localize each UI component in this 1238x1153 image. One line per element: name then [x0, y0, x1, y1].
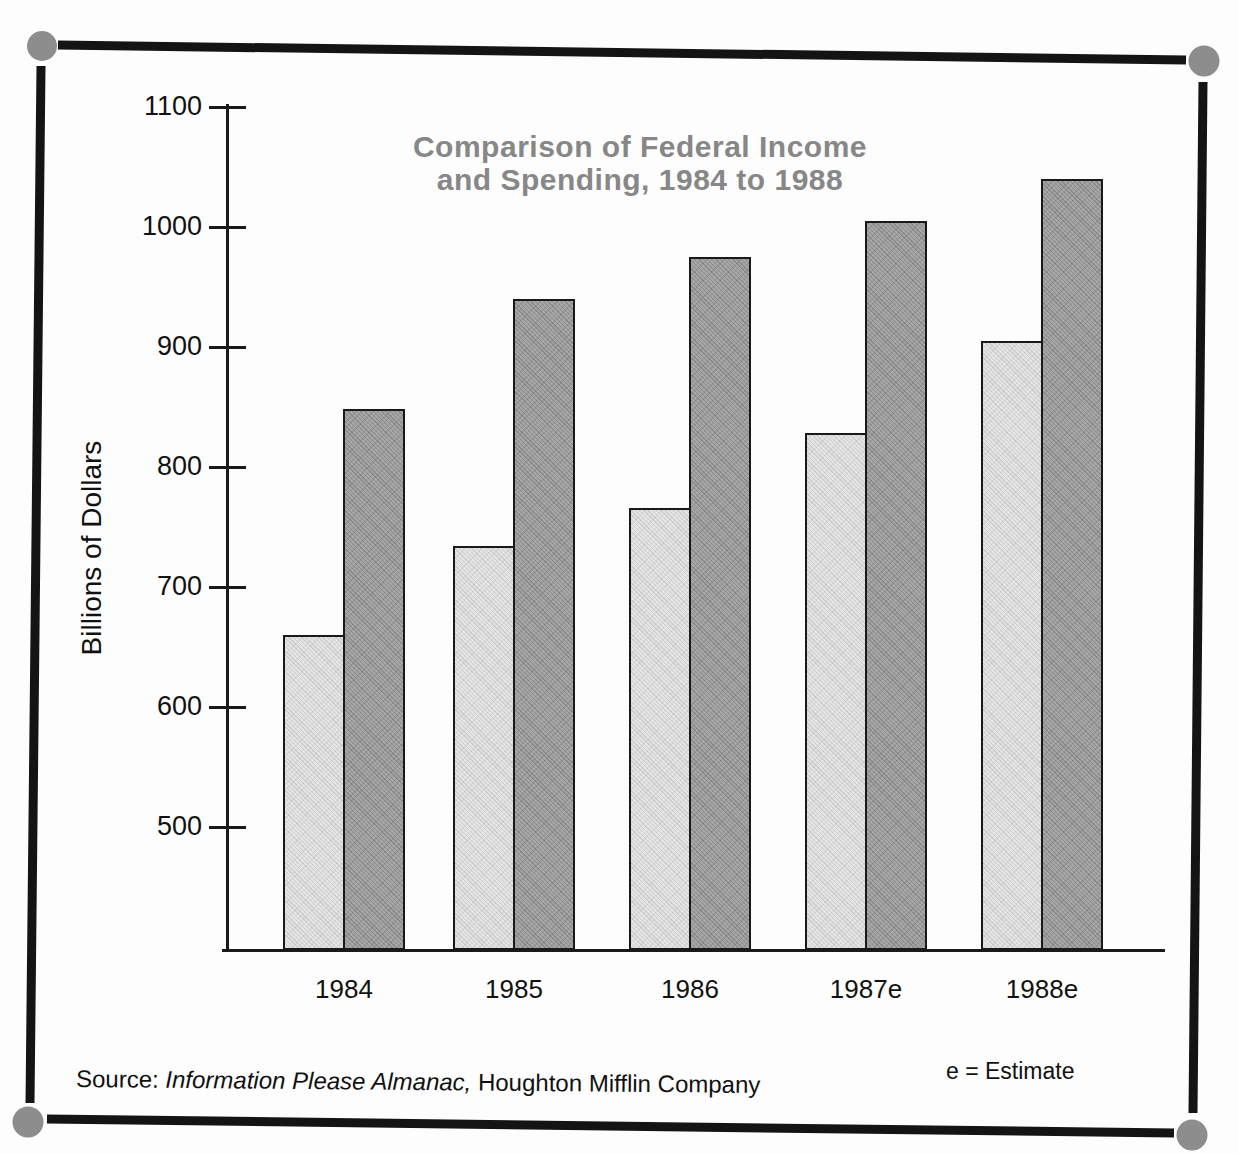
corner-dot-top-left: [27, 31, 57, 61]
y-tick-mark-800: [209, 466, 246, 469]
y-tick-label-600: 600: [110, 691, 202, 722]
y-axis-label: Billions of Dollars: [76, 441, 108, 656]
bar-light-1985: [453, 546, 515, 950]
source-note: Source: Information Please Almanac, Houg…: [76, 1065, 761, 1099]
bar-light-1988e: [981, 341, 1043, 950]
x-tick-label-1985: 1985: [444, 974, 584, 1005]
bar-light-1987e: [805, 433, 867, 950]
y-tick-mark-1000: [209, 226, 246, 229]
y-tick-label-1100: 1100: [110, 91, 202, 122]
bar-dark-1988e: [1041, 179, 1103, 950]
corner-dot-top-right: [1189, 46, 1220, 77]
source-prefix: Source:: [76, 1065, 159, 1093]
y-tick-label-900: 900: [110, 331, 202, 362]
corner-dot-bottom-right: [1177, 1120, 1208, 1151]
y-tick-label-800: 800: [110, 451, 202, 482]
frame-left-line: [30, 66, 41, 1103]
bar-dark-1986: [689, 257, 751, 950]
y-tick-mark-700: [209, 586, 246, 589]
bar-dark-1985: [513, 299, 575, 950]
bar-light-1986: [629, 508, 691, 950]
x-tick-label-1988e: 1988e: [972, 974, 1112, 1005]
frame-bottom-line: [47, 1119, 1174, 1133]
scanned-chart-page: Comparison of Federal Income and Spendin…: [0, 0, 1238, 1153]
bar-dark-1987e: [865, 221, 927, 950]
y-tick-label-500: 500: [110, 811, 202, 842]
bar-light-1984: [283, 635, 345, 950]
chart-title-line2: and Spending, 1984 to 1988: [340, 163, 940, 196]
bar-dark-1984: [343, 409, 405, 950]
frame-top-line: [58, 45, 1186, 60]
y-tick-mark-1100: [209, 106, 246, 109]
chart-title: Comparison of Federal Income and Spendin…: [340, 130, 940, 196]
y-tick-label-1000: 1000: [110, 211, 202, 242]
chart-title-line1: Comparison of Federal Income: [340, 130, 940, 163]
x-tick-label-1987e: 1987e: [796, 974, 936, 1005]
x-tick-label-1986: 1986: [620, 974, 760, 1005]
x-tick-label-1984: 1984: [274, 974, 414, 1005]
y-tick-mark-500: [209, 826, 246, 829]
y-tick-label-700: 700: [110, 571, 202, 602]
frame-right-line: [1193, 82, 1203, 1113]
source-publisher: Houghton Mifflin Company: [478, 1069, 761, 1098]
y-tick-mark-600: [209, 706, 246, 709]
y-tick-mark-900: [209, 346, 246, 349]
source-publication: Information Please Almanac,: [165, 1066, 471, 1096]
estimate-note: e = Estimate: [946, 1058, 1074, 1085]
corner-dot-bottom-left: [13, 1107, 44, 1138]
